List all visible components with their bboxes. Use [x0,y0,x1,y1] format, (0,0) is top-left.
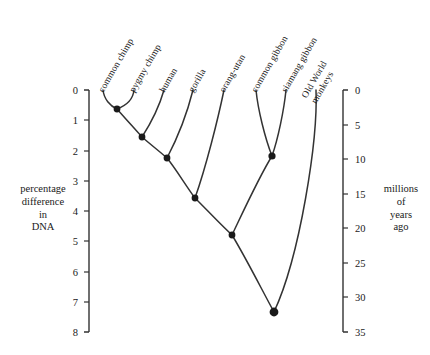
branch-gorilla [167,90,193,158]
branch-siamang-gibbon [272,90,286,156]
branch-chimp-clade [117,109,142,137]
right-tick-label: 25 [355,258,366,269]
branch-african-ape-clade [167,158,195,198]
branch-hominoid-clade [232,235,274,312]
left-tick-label: 6 [73,267,78,278]
tree-nodes [114,106,279,317]
right-axis-caption: millions of years ago [374,183,428,234]
left-axis-caption: percentage difference in DNA [8,183,78,234]
branch-gibbon-clade [232,156,272,235]
branch-orang-utan [195,90,224,198]
node-chimp-split [114,106,121,113]
phylogenetic-tree-figure: common chimp pygmy chimp human gorilla o… [0,0,430,355]
right-tick-label: 20 [355,223,366,234]
right-tick-label: 35 [355,327,366,338]
node-orangutan-split [192,195,199,202]
right-tick-label: 30 [355,292,366,303]
branch-human-chimp-clade [142,137,167,158]
right-tick-label: 15 [355,189,366,200]
right-tick-label: 5 [355,120,360,131]
right-tick-label: 0 [355,85,360,96]
branch-human [142,90,164,137]
node-human-chimp-split [139,134,146,141]
right-axis-bracket [343,90,348,332]
node-catarrhine-root [270,308,279,317]
node-gorilla-split [164,155,171,162]
branch-common-gibbon [256,90,272,156]
left-tick-label: 2 [73,146,78,157]
branch-pygmy-chimp [117,90,134,109]
node-gibbon-split [268,152,275,159]
left-tick-label: 0 [73,85,78,96]
tree-branches [103,90,316,312]
left-tick-label: 1 [73,115,78,126]
left-tick-label: 5 [73,236,78,247]
tree-canvas: 0 1 2 3 4 5 6 7 8 0 5 10 15 20 25 30 3 [0,0,430,355]
branch-great-ape-clade [195,198,232,235]
right-tick-label: 10 [355,154,366,165]
left-tick-label: 7 [73,297,78,308]
node-ape-gibbon-split [229,232,236,239]
left-tick-label: 8 [73,327,78,338]
right-axis: 0 5 10 15 20 25 30 35 [343,85,366,338]
